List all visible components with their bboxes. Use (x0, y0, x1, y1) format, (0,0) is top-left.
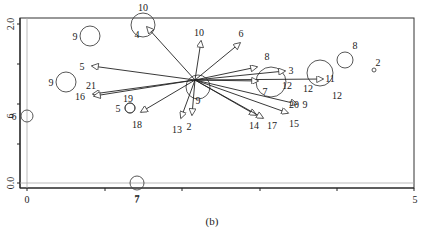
ordination-biplot: 075 2.060.0 1041068311752116181321417152… (0, 0, 425, 232)
sample-circle (125, 103, 135, 113)
arrow-label: 5 (80, 61, 85, 72)
sample-circle (80, 26, 100, 46)
circle-label: 19 (123, 93, 133, 104)
arrow-label: 7 (263, 86, 268, 97)
species-arrow (195, 43, 240, 80)
species-arrow (94, 80, 195, 96)
species-arrow (195, 80, 263, 118)
arrow-label: 21 (86, 80, 96, 91)
arrow-label: 11 (325, 73, 335, 84)
arrow-label: 10 (138, 2, 148, 13)
arrow-label: 4 (135, 29, 140, 40)
species-arrow (195, 71, 285, 80)
arrow-label: 14 (249, 120, 259, 131)
species-arrow (195, 80, 258, 81)
arrow-label: 8 (265, 51, 270, 62)
sample-circle (372, 68, 376, 72)
arrow-label: 18 (132, 119, 142, 130)
circle-label: 12 (332, 90, 342, 101)
x-tick-label: 0 (25, 194, 30, 205)
sample-circle (337, 52, 353, 68)
circle-label: 9 (196, 95, 201, 106)
arrow-label: 20 (289, 99, 299, 110)
arrow-label: 3 (289, 65, 294, 76)
figure-caption: (b) (206, 215, 219, 228)
sample-circle (56, 72, 76, 92)
species-arrow (141, 80, 195, 112)
circle-label: 12 (303, 83, 313, 94)
point-labels: 1041068311752116181321417152099919569121… (12, 2, 381, 204)
arrow-label: 10 (194, 27, 204, 38)
x-tick-labels: 075 (25, 194, 418, 205)
species-arrow (195, 67, 257, 80)
circle-label: 5 (116, 103, 121, 114)
arrow-label: 16 (75, 91, 85, 102)
arrow-label: 6 (239, 28, 244, 39)
circle-label: 8 (353, 40, 358, 51)
circle-label: 6 (12, 111, 17, 122)
y-tick-labels: 2.060.0 (5, 18, 16, 190)
species-arrow (195, 41, 201, 80)
species-arrow (147, 27, 195, 80)
circle-label: 2 (376, 57, 381, 68)
arrow-label: 9 (303, 99, 308, 110)
species-arrow (92, 66, 195, 80)
circle-label: 9 (49, 77, 54, 88)
y-tick-label: 0.0 (5, 177, 16, 190)
y-tick-label: 2.0 (5, 18, 16, 31)
circle-label: 12 (282, 80, 292, 91)
arrow-label: 2 (187, 121, 192, 132)
species-arrow (195, 79, 323, 80)
species-arrow (181, 80, 195, 118)
circle-label: 9 (73, 31, 78, 42)
x-tick-label: 5 (413, 194, 418, 205)
arrow-label: 15 (289, 118, 299, 129)
arrow-label: 13 (172, 124, 182, 135)
arrow-label: 17 (267, 120, 277, 131)
circle-label: 7 (135, 193, 140, 204)
